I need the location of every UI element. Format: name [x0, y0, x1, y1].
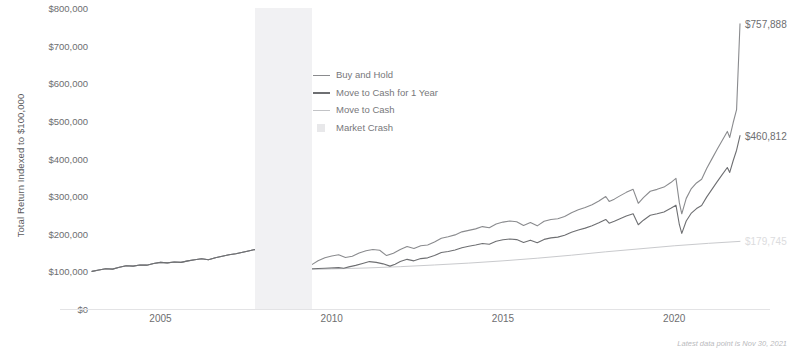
legend-item-label: Move to Cash	[336, 104, 395, 115]
legend-swatch-line-icon	[313, 87, 330, 98]
x-axis-tick-label: 2010	[321, 313, 343, 324]
y-axis-tick-label: $300,000	[22, 191, 88, 202]
y-axis-tick-label: $800,000	[22, 3, 88, 14]
series-line	[92, 136, 740, 272]
endpoint-value-label: $460,812	[745, 130, 787, 141]
x-axis-tick-label: 2005	[149, 313, 171, 324]
y-axis-tick-label: $400,000	[22, 153, 88, 164]
footnote: Latest data point is Nov 30, 2021	[677, 339, 787, 348]
plot-area	[92, 8, 740, 309]
legend-item[interactable]: Market Crash	[313, 119, 503, 137]
chart-container: Total Return Indexed to $100,000 $800,00…	[0, 0, 795, 354]
legend-item[interactable]: Move to Cash	[313, 101, 503, 119]
y-axis-tick-label: $100,000	[22, 266, 88, 277]
series-line	[92, 241, 740, 271]
y-axis-tick-label: $500,000	[22, 115, 88, 126]
legend-item[interactable]: Buy and Hold	[313, 66, 503, 84]
legend-swatch-box-icon	[313, 122, 330, 133]
market-crash-band	[255, 8, 312, 309]
y-axis-tick-label: $700,000	[22, 40, 88, 51]
endpoint-value-label: $179,745	[745, 236, 787, 247]
legend-item-label: Buy and Hold	[336, 69, 393, 80]
legend-item[interactable]: Move to Cash for 1 Year	[313, 84, 503, 102]
series-lines	[92, 8, 740, 309]
chart-legend: Buy and HoldMove to Cash for 1 YearMove …	[313, 66, 503, 136]
y-axis-tick-label: $600,000	[22, 78, 88, 89]
x-axis-tick-label: 2020	[663, 313, 685, 324]
legend-swatch-line-icon	[313, 69, 330, 80]
x-axis-line	[60, 309, 770, 310]
series-line	[92, 24, 740, 272]
legend-item-label: Move to Cash for 1 Year	[336, 87, 438, 98]
legend-item-label: Market Crash	[336, 122, 393, 133]
legend-swatch-line-icon	[313, 104, 330, 115]
x-axis-tick-label: 2015	[492, 313, 514, 324]
y-axis-tick-label: $200,000	[22, 228, 88, 239]
y-axis-tick-labels: $800,000$700,000$600,000$500,000$400,000…	[22, 0, 88, 354]
endpoint-value-label: $757,888	[745, 18, 787, 29]
x-axis-tick-labels: 2005201020152020	[92, 313, 740, 335]
